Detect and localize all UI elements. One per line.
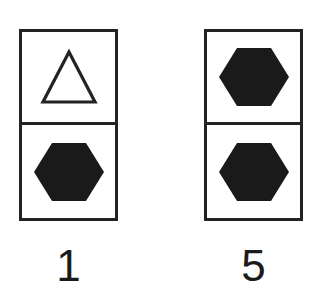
card-1-cell-bottom (22, 125, 115, 218)
card-2-cell-top (207, 32, 300, 125)
triangle-outline-icon (22, 32, 115, 122)
hexagon-solid-icon (207, 32, 300, 122)
hexagon-solid-icon (207, 125, 300, 218)
card-2-label: 5 (204, 244, 303, 288)
card-1-cell-top (22, 32, 115, 125)
shape-card-2 (204, 29, 303, 221)
shape-card-1 (19, 29, 118, 221)
figure-canvas: 1 5 (0, 0, 322, 308)
hexagon-solid-icon (22, 125, 115, 218)
card-2-cell-bottom (207, 125, 300, 218)
card-1-label: 1 (19, 244, 118, 288)
